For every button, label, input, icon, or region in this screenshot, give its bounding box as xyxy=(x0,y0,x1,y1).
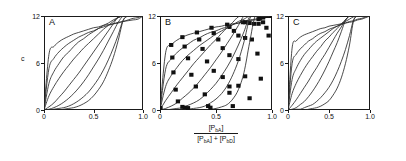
panel-c-curves xyxy=(288,16,370,110)
panel-b: B 00.51.00612 xyxy=(160,16,272,110)
data-point-marker xyxy=(194,85,198,89)
x-tick-label: 0 xyxy=(286,113,290,120)
data-point-marker xyxy=(186,56,190,60)
data-point-marker xyxy=(208,106,212,110)
curve xyxy=(160,16,272,110)
x-tick-label: 0.5 xyxy=(89,113,99,120)
x-tick-label: 1.0 xyxy=(267,113,277,120)
data-point-marker xyxy=(270,16,272,18)
data-point-marker xyxy=(236,84,240,88)
y-tick-label: 0 xyxy=(152,107,156,114)
x-tick-label: 0 xyxy=(158,113,162,120)
x-tick-label: 1.0 xyxy=(365,113,375,120)
data-point-marker xyxy=(176,99,180,103)
x-axis-fraction: [PbA] [PbA] + [PbD] xyxy=(194,124,238,143)
data-point-marker xyxy=(189,73,193,77)
data-point-marker xyxy=(231,104,235,108)
curve xyxy=(288,16,370,110)
data-point-marker xyxy=(259,77,263,81)
data-point-marker xyxy=(227,91,231,95)
y-tick-label: 0 xyxy=(36,107,40,114)
data-point-marker xyxy=(186,106,190,110)
x-tick-label: 1.0 xyxy=(138,113,148,120)
curve xyxy=(160,16,272,110)
panel-b-curves xyxy=(160,16,272,110)
data-point-marker xyxy=(200,47,204,51)
curve xyxy=(160,16,272,110)
curve xyxy=(44,16,143,110)
y-tick-mark xyxy=(285,63,288,64)
x-tick-label: 0.5 xyxy=(211,113,221,120)
y-tick-mark xyxy=(41,110,44,111)
y-tick-label: 0 xyxy=(280,107,284,114)
y-tick-label: 12 xyxy=(148,13,156,20)
panel-c: C 00.51.00612 xyxy=(288,16,370,110)
y-tick-label: 6 xyxy=(280,60,284,67)
x-tick-label: 0 xyxy=(42,113,46,120)
y-axis-name: c xyxy=(21,55,25,62)
curve xyxy=(288,16,370,110)
curve xyxy=(160,16,272,110)
y-tick-label: 6 xyxy=(36,60,40,67)
figure-panel-group: c A 00.51.00612 B 00.51.00612 C 00.51.00… xyxy=(0,0,406,161)
curve xyxy=(288,16,370,110)
y-tick-mark xyxy=(285,16,288,17)
data-point-marker xyxy=(255,52,259,56)
curve xyxy=(288,16,370,110)
panel-a-curves xyxy=(44,16,143,110)
data-point-marker xyxy=(174,88,178,92)
data-point-marker xyxy=(205,59,209,63)
data-point-marker xyxy=(256,22,260,26)
data-point-marker xyxy=(195,30,199,34)
data-point-marker xyxy=(264,26,268,30)
data-point-marker xyxy=(203,92,207,96)
panel-a-label: A xyxy=(49,18,55,27)
curve xyxy=(160,16,272,110)
data-point-marker xyxy=(227,85,231,89)
y-tick-mark xyxy=(157,110,160,111)
curve xyxy=(160,16,272,110)
data-point-marker xyxy=(221,75,225,79)
y-tick-mark xyxy=(41,16,44,17)
data-point-marker xyxy=(236,34,240,38)
curve xyxy=(288,16,370,110)
fraction-denominator: [PbA] + [PbD] xyxy=(194,133,238,143)
x-tick-label: 0.5 xyxy=(324,113,334,120)
y-tick-mark xyxy=(157,16,160,17)
data-point-marker xyxy=(183,45,187,49)
curve xyxy=(288,16,370,110)
curve xyxy=(288,16,370,110)
panel-a: A 00.51.00612 xyxy=(44,16,143,110)
y-tick-mark xyxy=(41,63,44,64)
y-tick-label: 6 xyxy=(152,60,156,67)
y-tick-label: 12 xyxy=(276,13,284,20)
data-point-marker xyxy=(247,96,251,100)
data-point-marker xyxy=(197,38,201,42)
data-point-marker xyxy=(212,69,216,73)
fraction-numerator: [PbA] xyxy=(194,124,238,133)
x-axis-label: [PbA] [PbA] + [PbD] xyxy=(160,124,272,143)
curve xyxy=(160,16,272,110)
data-point-marker xyxy=(171,70,175,74)
data-point-marker xyxy=(261,20,265,24)
data-point-marker xyxy=(227,53,231,57)
panel-c-label: C xyxy=(293,18,300,27)
data-point-marker xyxy=(170,56,174,60)
data-point-marker xyxy=(169,43,173,47)
data-point-marker xyxy=(180,35,184,39)
data-point-marker xyxy=(209,26,213,30)
y-tick-label: 12 xyxy=(32,13,40,20)
data-point-marker xyxy=(267,34,271,38)
curve xyxy=(288,16,370,110)
curve xyxy=(160,16,272,110)
y-tick-mark xyxy=(157,63,160,64)
panel-b-label: B xyxy=(165,18,171,27)
y-tick-mark xyxy=(285,110,288,111)
